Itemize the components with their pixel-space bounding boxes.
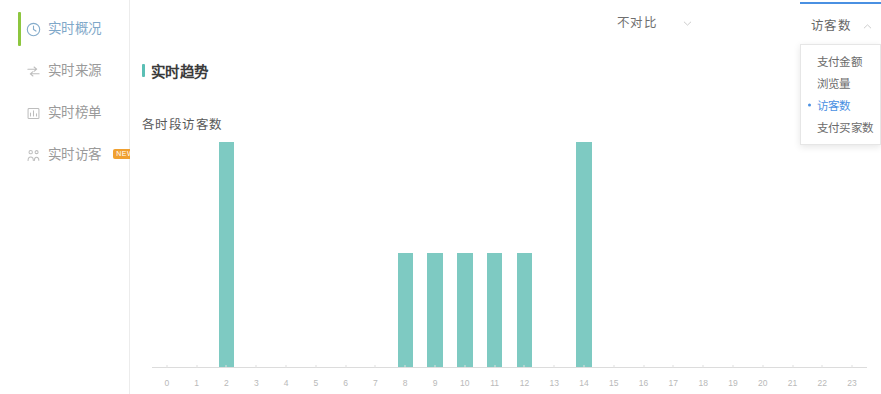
x-axis-tick-label: 15	[609, 378, 618, 388]
metric-option-label: 支付金额	[817, 53, 862, 69]
x-axis-tick-label: 6	[343, 378, 348, 388]
x-axis-tick-mark	[732, 365, 733, 368]
x-axis-line	[152, 367, 867, 368]
x-axis-tick-mark	[286, 365, 287, 368]
x-axis-tick-label: 0	[165, 378, 170, 388]
sidebar-item-realtime-source[interactable]: 实时来源	[0, 50, 129, 92]
x-axis-tick-label: 8	[403, 378, 408, 388]
x-axis-tick-label: 10	[460, 378, 469, 388]
metric-option-label: 浏览量	[817, 75, 851, 91]
metric-dropdown: 访客数 支付金额 浏览量 访客数 支付买家数	[800, 2, 881, 44]
chart-area: 各时段访客数 012345678910111213141516171819202…	[130, 98, 881, 394]
sidebar-item-label: 实时概况	[48, 22, 101, 36]
x-axis-tick-mark	[256, 365, 257, 368]
x-axis-tick-mark	[226, 365, 227, 368]
sidebar-item-realtime-visitors[interactable]: 实时访客 NEW	[0, 134, 129, 176]
panel-header: 实时趋势	[130, 48, 881, 92]
x-axis-tick-label: 2	[224, 378, 229, 388]
x-axis-tick-mark	[494, 365, 495, 368]
x-axis-tick-label: 17	[669, 378, 678, 388]
x-axis-tick-mark	[464, 365, 465, 368]
bar-chart-plot	[152, 142, 867, 368]
sidebar-item-label: 实时访客	[48, 148, 101, 162]
sidebar-item-realtime-ranking[interactable]: 实时榜单	[0, 92, 129, 134]
compare-dropdown[interactable]: 不对比	[617, 12, 692, 31]
x-axis-tick-label: 4	[284, 378, 289, 388]
x-axis-tick-label: 18	[698, 378, 707, 388]
active-indicator-bar	[18, 12, 21, 46]
x-axis-tick-mark	[613, 365, 614, 368]
x-axis-tick-mark	[583, 365, 584, 368]
x-axis-tick-label: 13	[549, 378, 558, 388]
compare-dropdown-label: 不对比	[617, 12, 657, 31]
x-axis-tick-mark	[345, 365, 346, 368]
x-axis-tick-label: 9	[433, 378, 438, 388]
x-axis-tick-mark	[166, 365, 167, 368]
metric-dropdown-toggle[interactable]: 访客数	[800, 4, 881, 44]
x-axis-tick-label: 5	[313, 378, 318, 388]
x-axis-tick-mark	[673, 365, 674, 368]
bar	[219, 142, 234, 368]
chart-title: 各时段访客数	[142, 114, 222, 133]
sidebar-item-realtime-overview[interactable]: 实时概况	[0, 8, 129, 50]
x-axis-tick-label: 20	[758, 378, 767, 388]
x-axis-tick-label: 14	[579, 378, 588, 388]
x-axis-tick-mark	[852, 365, 853, 368]
bar	[576, 142, 591, 368]
bar	[517, 253, 532, 368]
x-axis-tick-label: 12	[520, 378, 529, 388]
page-title: 实时趋势	[142, 60, 209, 81]
x-axis-tick-mark	[375, 365, 376, 368]
x-axis-tick-mark	[435, 365, 436, 368]
chevron-down-icon	[683, 17, 692, 26]
x-axis-tick-label: 7	[373, 378, 378, 388]
x-axis-tick-mark	[196, 365, 197, 368]
x-axis-tick-mark	[315, 365, 316, 368]
bar	[487, 253, 502, 368]
x-axis-tick-label: 22	[818, 378, 827, 388]
sidebar: 实时概况 实时来源 实时榜单 实时访客 NEW	[0, 0, 130, 394]
visitors-icon	[26, 148, 41, 163]
x-axis-tick-label: 23	[847, 378, 856, 388]
x-axis-tick-mark	[643, 365, 644, 368]
x-axis-tick-label: 19	[728, 378, 737, 388]
realtime-trend-page: 实时概况 实时来源 实时榜单 实时访客 NEW 实时趋势	[0, 0, 881, 394]
clock-icon	[26, 22, 41, 37]
x-axis-tick-labels: 01234567891011121314151617181920212223	[152, 370, 867, 390]
x-axis-tick-mark	[405, 365, 406, 368]
bar	[398, 253, 413, 368]
title-accent-bar	[142, 64, 145, 77]
metric-option-page-views[interactable]: 浏览量	[801, 72, 880, 94]
x-axis-tick-mark	[703, 365, 704, 368]
x-axis-tick-mark	[554, 365, 555, 368]
sidebar-item-label: 实时来源	[48, 64, 101, 78]
x-axis-tick-mark	[762, 365, 763, 368]
metric-dropdown-label: 访客数	[811, 15, 851, 34]
main-content: 实时趋势 不对比 访客数 支付金额 浏览量	[130, 0, 881, 394]
bar	[427, 253, 442, 368]
x-axis-tick-mark	[822, 365, 823, 368]
chevron-up-icon	[863, 20, 872, 29]
x-axis-tick-label: 16	[639, 378, 648, 388]
flow-arrows-icon	[26, 64, 41, 79]
x-axis-tick-mark	[524, 365, 525, 368]
ranking-list-icon	[26, 106, 41, 121]
sidebar-item-label: 实时榜单	[48, 106, 101, 120]
x-axis-tick-label: 11	[490, 378, 499, 388]
x-axis-tick-label: 3	[254, 378, 259, 388]
bar	[457, 253, 472, 368]
metric-option-payment-amount[interactable]: 支付金额	[801, 50, 880, 72]
x-axis-tick-mark	[792, 365, 793, 368]
x-axis-tick-label: 21	[788, 378, 797, 388]
page-title-text: 实时趋势	[151, 60, 209, 81]
x-axis-tick-label: 1	[194, 378, 199, 388]
